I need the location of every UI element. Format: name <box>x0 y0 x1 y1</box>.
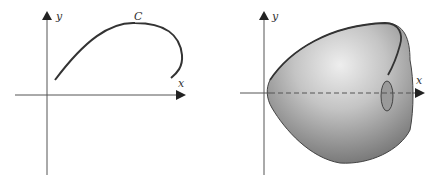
left-panel: y x C <box>15 10 186 175</box>
curve-c <box>55 23 182 80</box>
x-axis-arrow-icon <box>415 88 425 98</box>
x-axis-label: x <box>178 77 185 90</box>
x-axis-arrow-icon <box>176 90 186 100</box>
x-axis-label: x <box>416 74 423 87</box>
right-panel: y x <box>240 10 425 175</box>
y-axis-label: y <box>271 10 279 23</box>
y-axis-arrow-icon <box>42 11 52 20</box>
inner-hole <box>381 81 393 111</box>
figure-canvas: y x C y x <box>0 0 443 183</box>
curve-label: C <box>134 10 143 23</box>
y-axis-arrow-icon <box>259 11 269 20</box>
y-axis-label: y <box>55 10 63 23</box>
